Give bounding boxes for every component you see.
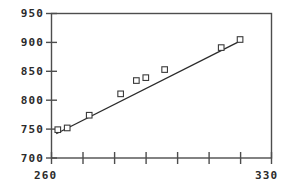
data-point-marker: [118, 91, 124, 97]
y-axis-label-800: 800: [6, 95, 44, 106]
data-point-marker: [55, 127, 61, 133]
regression-line: [56, 42, 238, 134]
y-axis-label-950: 950: [6, 8, 44, 19]
frame-border: [52, 14, 272, 159]
y-axis-label-900: 900: [6, 37, 44, 48]
x-axis-label-260: 260: [34, 170, 57, 181]
plot-frame: [52, 14, 272, 159]
plot-area: [0, 0, 299, 191]
fit-line-segment: [56, 42, 238, 134]
x-axis-label-330: 330: [255, 170, 278, 181]
data-point-marker: [64, 125, 70, 131]
data-point-marker: [134, 78, 140, 84]
chart-container: 950 900 850 800 750 700 260 330: [0, 0, 299, 191]
data-point-marker: [237, 37, 243, 43]
y-axis-label-750: 750: [6, 124, 44, 135]
data-point-marker: [86, 112, 92, 118]
data-point-markers: [55, 37, 243, 133]
y-axis-label-700: 700: [6, 153, 44, 164]
y-axis-label-850: 850: [6, 66, 44, 77]
data-point-marker: [143, 75, 149, 81]
data-point-marker: [218, 45, 224, 51]
data-point-marker: [162, 67, 168, 73]
